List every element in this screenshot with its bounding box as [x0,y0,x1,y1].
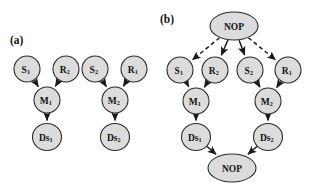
node-a_m1[interactable]: M1 [34,87,60,113]
edge-b_ds1-to-b_nop_bot [207,146,216,154]
nodes-layer: S1R2M1Ds1S2R1M2Ds2NOPS1R2S2R1M1M2Ds1Ds2N… [14,12,301,182]
panel-labels-layer: (a)(b) [10,13,174,47]
edge-a_r1-to-a_m2 [123,81,127,87]
edge-b_ds2-to-b_nop_bot [248,146,257,154]
node-a_r1[interactable]: R1 [121,56,147,82]
diagram-canvas: S1R2M1Ds1S2R1M2Ds2NOPS1R2S2R1M1M2Ds1Ds2N… [0,0,311,190]
node-a_r2[interactable]: R2 [53,56,79,82]
edge-b_s1-to-b_m1 [186,82,188,87]
node-a_ds2[interactable]: Ds2 [101,124,130,151]
edge-a_s2-to-a_m2 [102,80,106,86]
panel-label-b: (b) [160,13,174,26]
node-b_m2[interactable]: M2 [255,88,281,114]
node-a_s1[interactable]: S1 [14,56,40,82]
edge-b_s2-to-b_m2 [257,82,260,87]
node-b_ds1[interactable]: Ds1 [182,124,211,151]
edge-a_r2-to-a_m1 [55,81,59,87]
node-b_r2[interactable]: R2 [202,57,228,83]
node-b_ds2[interactable]: Ds2 [254,124,283,151]
node-label-b_nop_top: NOP [224,22,244,32]
node-a_m2[interactable]: M2 [102,87,128,113]
edge-b_r2-to-b_m1 [204,82,208,88]
node-b_nop_top[interactable]: NOP [210,12,258,40]
panel-label-a: (a) [10,34,24,47]
edges-layer [34,38,280,155]
node-b_s2[interactable]: S2 [237,57,263,83]
edge-b_r1-to-b_m2 [277,81,281,87]
node-label-b_nop_bot: NOP [222,164,242,174]
node-b_nop_bot[interactable]: NOP [208,154,256,182]
node-a_ds1[interactable]: Ds1 [33,124,62,151]
node-b_s1[interactable]: S1 [167,57,193,83]
edge-a_s1-to-a_m1 [34,80,38,86]
node-b_m1[interactable]: M1 [183,88,209,114]
figure-container: S1R2M1Ds1S2R1M2Ds2NOPS1R2S2R1M1M2Ds1Ds2N… [0,0,311,190]
edge-b_nop_top-to-b_r2 [221,40,228,55]
edge-b_nop_top-to-b_s2 [239,40,244,55]
edge-b_nop_top-to-b_r1 [248,38,275,60]
node-a_s2[interactable]: S2 [82,56,108,82]
node-b_r1[interactable]: R1 [275,57,301,83]
